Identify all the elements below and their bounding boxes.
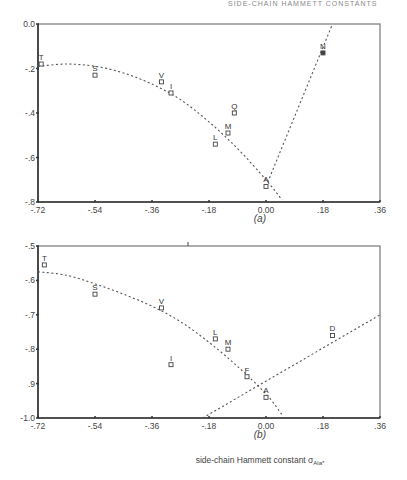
y-tick-label: .9 [28, 379, 35, 389]
data-point-S [93, 292, 97, 296]
y-tick-label: -.6 [25, 275, 35, 285]
data-point-label: Q [231, 102, 237, 111]
data-point-label: V [159, 71, 165, 80]
y-tick-label: -.7 [25, 310, 35, 320]
data-point-label: T [39, 53, 44, 62]
data-point-Q [232, 111, 236, 115]
x-tick-label: -.54 [88, 205, 103, 215]
panel-caption: (a) [254, 213, 266, 224]
data-point-M [226, 347, 230, 351]
figure: -.72-.54-.36-.180.00.18.360.0-.2-.4-.6-.… [0, 0, 407, 480]
x-tick-label: -.18 [202, 205, 217, 215]
y-tick-label: -1.0 [20, 413, 35, 423]
data-point-I [169, 91, 173, 95]
data-point-N [321, 51, 325, 55]
x-tick-label: -.36 [145, 421, 160, 431]
data-point-label: V [159, 297, 165, 306]
x-tick-label: -.54 [88, 421, 103, 431]
data-point-label: I [170, 354, 172, 363]
data-point-T [39, 62, 43, 66]
data-point-label: M [225, 122, 232, 131]
data-point-label: L [213, 328, 218, 337]
x-axis-label: side-chain Hammett constant σAla* [196, 455, 325, 466]
fit-line [38, 272, 282, 415]
x-tick-label: .18 [317, 205, 329, 215]
plot-frame [38, 24, 380, 202]
x-tick-label: -.36 [145, 205, 160, 215]
data-point-label: A [263, 386, 269, 395]
chart-panel-b: -.72-.54-.36-.180.00.18.36-.5-.6-.7-.8.9… [20, 241, 386, 440]
y-tick-label: -.6 [25, 153, 35, 163]
chart-panel-a: -.72-.54-.36-.180.00.18.360.0-.2-.4-.6-.… [23, 19, 386, 224]
data-point-label: S [92, 64, 97, 73]
x-tick-label: -.18 [202, 421, 217, 431]
y-tick-label: -.2 [25, 64, 35, 74]
data-point-label: N [320, 42, 326, 51]
data-point-A [264, 395, 268, 399]
data-point-A [264, 184, 268, 188]
y-tick-label: -.4 [25, 108, 35, 118]
data-point-L [213, 337, 217, 341]
data-point-D [331, 333, 335, 337]
data-point-S [93, 73, 97, 77]
data-point-label: S [92, 283, 97, 292]
fit-line [203, 315, 380, 418]
data-point-V [160, 80, 164, 84]
panel-caption: (b) [254, 429, 266, 440]
y-tick-label: -.8 [25, 344, 35, 354]
data-point-I [169, 363, 173, 367]
data-point-label: M [225, 338, 232, 347]
data-point-V [160, 306, 164, 310]
data-point-label: A [263, 175, 269, 184]
data-point-label: L [213, 133, 218, 142]
y-tick-label: 0.0 [23, 19, 35, 29]
fit-line [38, 64, 282, 200]
y-tick-label: -.5 [25, 241, 35, 251]
data-point-label: D [330, 324, 336, 333]
data-point-label: T [42, 254, 47, 263]
data-point-M [226, 131, 230, 135]
x-tick-label: .36 [374, 421, 386, 431]
data-point-label: I [170, 82, 172, 91]
x-tick-label: .18 [317, 421, 329, 431]
y-tick-label: -.8 [25, 197, 35, 207]
data-point-F [245, 375, 249, 379]
data-point-L [213, 142, 217, 146]
x-tick-label: .36 [374, 205, 386, 215]
data-point-label: F [245, 366, 250, 375]
data-point-T [42, 263, 46, 267]
